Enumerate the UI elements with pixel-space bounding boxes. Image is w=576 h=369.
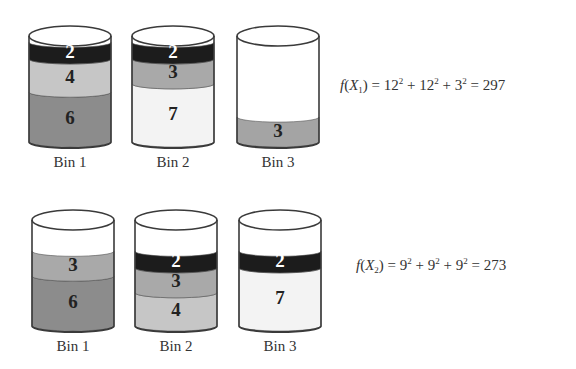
solution-x2: 63Bin 1 432Bin 2 72Bin 3 f(X2) = 92 + 92… [0, 184, 576, 369]
bin-label: Bin 2 [131, 154, 215, 171]
bin-label: Bin 3 [236, 154, 320, 171]
bin-2: 432Bin 2 [134, 210, 218, 369]
layer-size-label: 3 [236, 121, 320, 140]
layer-size-label: 7 [238, 288, 322, 307]
layer-size-label: 2 [134, 251, 218, 270]
layer-size-label: 3 [134, 271, 218, 290]
layer-size-label: 3 [131, 62, 215, 81]
bin-label: Bin 1 [28, 154, 112, 171]
layer-size-label: 6 [31, 292, 115, 311]
layer-size-label: 6 [28, 108, 112, 127]
objective-formula: f(X1) = 122 + 122 + 32 = 297 [340, 76, 505, 95]
bin-label: Bin 2 [134, 338, 218, 355]
bin-label: Bin 3 [238, 338, 322, 355]
layer-size-label: 2 [238, 251, 322, 270]
layer-size-label: 3 [31, 255, 115, 274]
bin-3: 3Bin 3 [236, 26, 320, 186]
bin-1: 642Bin 1 [28, 26, 112, 186]
objective-result: 297 [483, 77, 506, 93]
layer-size-label: 7 [131, 104, 215, 123]
objective-result: 273 [484, 257, 507, 273]
bin-3: 72Bin 3 [238, 210, 322, 369]
layer-size-label: 2 [131, 42, 215, 61]
cylinder-icon [236, 26, 320, 166]
layer-size-label: 4 [28, 67, 112, 86]
bin-2: 732Bin 2 [131, 26, 215, 186]
bin-label: Bin 1 [31, 338, 115, 355]
solution-x1: 642Bin 1 732Bin 2 3Bin 3 f(X1) = 122 + 1… [0, 0, 576, 185]
cylinder-icon [31, 210, 115, 350]
cylinder-icon [238, 210, 322, 350]
bin-1: 63Bin 1 [31, 210, 115, 369]
layer-size-label: 4 [134, 300, 218, 319]
layer-size-label: 2 [28, 42, 112, 61]
objective-formula: f(X2) = 92 + 92 + 92 = 273 [356, 256, 506, 275]
